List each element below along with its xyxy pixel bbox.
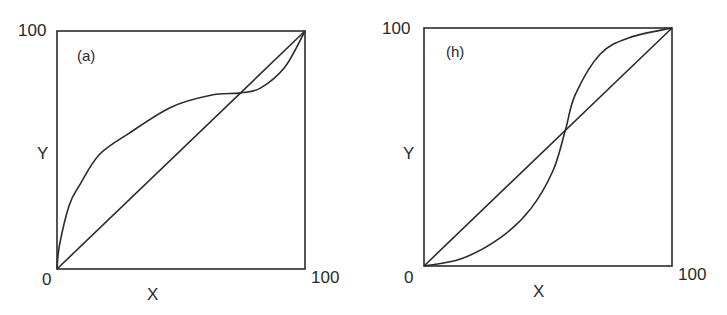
chart-a-diagonal-line [57,31,305,269]
chart-b-xmax-label: 100 [678,266,706,283]
chart-a-xmax-label: 100 [311,269,339,286]
chart-b-origin-label: 0 [404,269,413,286]
chart-panel-a: 100 0 100 X Y (a) [0,0,364,315]
chart-b-plot [364,0,727,315]
chart-b-diagonal-line [424,28,672,266]
chart-a-xlabel: X [147,286,158,303]
chart-a-ymax-label: 100 [18,22,46,39]
chart-b-ymax-label: 100 [382,20,410,37]
chart-a-ylabel: Y [37,145,48,162]
chart-b-xlabel: X [533,283,544,300]
chart-b-panel-label: (h) [446,44,464,59]
chart-a-panel-label: (a) [77,48,95,63]
chart-a-origin-label: 0 [42,271,51,288]
chart-b-ylabel: Y [403,145,414,162]
chart-a-plot [0,0,364,315]
chart-panel-b: 100 0 100 X Y (h) [364,0,727,315]
